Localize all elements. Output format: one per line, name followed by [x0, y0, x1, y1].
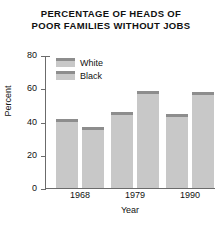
bar-black-1979 [137, 91, 159, 188]
bar-white-1990 [166, 114, 188, 188]
bar-white-1968 [56, 119, 78, 188]
chart-title-line-1: PERCENTAGE OF HEADS OF [0, 8, 222, 20]
y-tick-label-20: 20 [27, 150, 37, 160]
chart-title: PERCENTAGE OF HEADS OF POOR FAMILIES WIT… [0, 8, 222, 32]
x-axis-title: Year [45, 205, 215, 215]
bar-cap-icon [137, 91, 159, 94]
bar-cap-icon [192, 92, 214, 95]
bars-layer [46, 56, 215, 188]
bar-group-1968 [56, 56, 104, 188]
x-axis-line [45, 188, 215, 189]
y-tick-label-80: 80 [27, 50, 37, 60]
bar-chart-figure: PERCENTAGE OF HEADS OF POOR FAMILIES WIT… [0, 0, 222, 226]
bar-cap-icon [56, 119, 78, 122]
y-tick-label-0: 0 [32, 183, 37, 193]
bar-cap-icon [82, 127, 104, 130]
y-tick-0: 0 [41, 189, 46, 190]
x-tick-label-1979: 1979 [111, 190, 159, 200]
y-tick-label-60: 60 [27, 83, 37, 93]
x-tick-label-1968: 1968 [56, 190, 104, 200]
bar-white-1979 [111, 112, 133, 188]
bar-cap-icon [111, 112, 133, 115]
y-tick-label-40: 40 [27, 117, 37, 127]
plot-area: 80 60 40 20 0 [45, 56, 215, 189]
bar-group-1979 [111, 56, 159, 188]
bar-cap-icon [166, 114, 188, 117]
bar-black-1990 [192, 92, 214, 188]
chart-title-line-2: POOR FAMILIES WITHOUT JOBS [0, 20, 222, 32]
x-tick-label-1990: 1990 [166, 190, 214, 200]
bar-black-1968 [82, 127, 104, 188]
y-axis-title: Percent [3, 71, 13, 131]
bar-group-1990 [166, 56, 214, 188]
